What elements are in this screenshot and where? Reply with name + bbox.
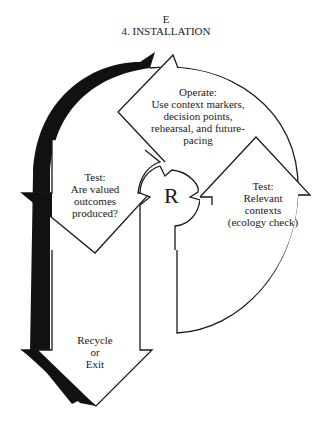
test-ecology-label: Test: Relevant contexts (ecology check)	[218, 180, 308, 228]
recycle-label: Recycle or Exit	[65, 334, 125, 370]
operate-label: Operate: Use context markers, decision p…	[138, 86, 258, 146]
test-valued-label: Test: Are valued outcomes produced?	[60, 171, 130, 219]
r-node-label: R	[164, 183, 179, 209]
